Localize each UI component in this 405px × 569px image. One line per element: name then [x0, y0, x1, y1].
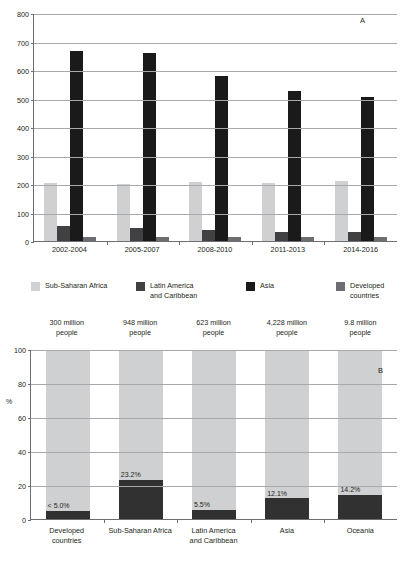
panel-b-stacked-bar: 23.2%	[119, 350, 163, 519]
legend-label: Developed countries	[350, 281, 401, 300]
legend-item: Asia	[246, 281, 274, 291]
panel-b-segment-undernourished	[265, 498, 309, 519]
panel-b-y-tick-mark	[28, 350, 31, 351]
panel-a-y-tick-mark	[31, 214, 34, 215]
panel-a-y-tick-mark	[31, 242, 34, 243]
panel-b-x-tick-label: Developed countries	[30, 526, 103, 545]
panel-b-population-header: 9.8 million people	[324, 318, 397, 337]
panel-b-y-tick-mark	[28, 520, 31, 521]
panel-b-population-header: 4,228 million people	[250, 318, 323, 337]
panel-a-y-tick-label: 300	[17, 152, 29, 161]
panel-b-x-tick-label: Oceania	[324, 526, 397, 545]
panel-b-y-tick-mark	[28, 384, 31, 385]
panel-a-gridline	[34, 157, 397, 158]
panel-a-y-tick-label: 100	[17, 209, 29, 218]
panel-a-gridline	[34, 214, 397, 215]
panel-a-bar	[215, 76, 228, 241]
legend-label: Latin America and Caribbean	[150, 281, 197, 300]
panel-b-gridline	[31, 418, 397, 419]
panel-b-gridline	[31, 350, 397, 351]
panel-a-y-tick-label: 600	[17, 67, 29, 76]
panel-a-bar	[262, 183, 275, 241]
panel-b-y-tick-label: 20	[18, 482, 26, 491]
panel-b-bar-group: < 5.0%	[31, 350, 104, 519]
panel-b-stacked-bar: 14.2%	[338, 350, 382, 519]
panel-b-segment-remainder	[119, 350, 163, 480]
panel-b-percent-label: 12.1%	[267, 490, 287, 497]
panel-b-y-tick-mark	[28, 418, 31, 419]
panel-a-gridline	[34, 14, 397, 15]
panel-b-gridline	[31, 452, 397, 453]
panel-a-gridline	[34, 100, 397, 101]
panel-b-y-tick-label: 0	[22, 516, 26, 525]
panel-a-y-tick-mark	[31, 14, 34, 15]
panel-b-x-tick-label: Sub-Saharan Africa	[103, 526, 176, 545]
panel-b: 300 million people948 million people623 …	[0, 318, 405, 569]
panel-a-bar	[83, 237, 96, 241]
panel-a-y-tick-label: 500	[17, 95, 29, 104]
panel-a-bar	[301, 237, 314, 241]
panel-a-y-tick-mark	[31, 100, 34, 101]
panel-b-y-tick-label: 40	[18, 448, 26, 457]
panel-b-segment-undernourished	[338, 495, 382, 519]
panel-a-bar	[189, 182, 202, 241]
panel-b-segment-remainder	[338, 350, 382, 495]
panel-a-bar	[130, 228, 143, 241]
panel-a-x-tick-label: 2005-2007	[106, 245, 179, 254]
panel-b-percent-label: 5.5%	[194, 501, 210, 508]
panel-a-y-tick-label: 700	[17, 38, 29, 47]
panel-a-y-tick-mark	[31, 71, 34, 72]
panel-b-y-tick-mark	[28, 486, 31, 487]
panel-a-bar	[348, 232, 361, 241]
panel-b-bar-groups: < 5.0%23.2%5.5%12.1%14.2%	[31, 350, 397, 519]
legend-swatch-icon	[246, 282, 255, 291]
panel-a-bar	[275, 232, 288, 241]
panel-a-y-tick-label: 200	[17, 181, 29, 190]
panel-a: A 0100200300400500600700800 2002-2004200…	[0, 0, 405, 270]
panel-a-legend: Sub-Saharan AfricaLatin America and Cari…	[31, 281, 401, 307]
panel-a-x-tick-label: 2011-2013	[251, 245, 324, 254]
panel-b-bar-group: 14.2%	[324, 350, 397, 519]
panel-a-bar	[44, 183, 57, 241]
panel-a-bar	[57, 226, 70, 241]
panel-a-y-tick-mark	[31, 128, 34, 129]
panel-a-x-tick-label: 2008-2010	[179, 245, 252, 254]
panel-b-x-tick-label: Asia	[250, 526, 323, 545]
panel-b-bar-group: 5.5%	[177, 350, 250, 519]
panel-a-bar	[202, 230, 215, 241]
panel-b-segment-undernourished	[46, 511, 90, 520]
panel-b-percent-label: < 5.0%	[48, 502, 70, 509]
legend-label: Asia	[260, 281, 274, 291]
panel-a-x-axis-labels: 2002-20042005-20072008-20102011-20132014…	[33, 245, 397, 254]
panel-b-y-axis-title: %	[6, 398, 12, 405]
panel-b-stacked-bar: 5.5%	[192, 350, 236, 519]
legend-item: Sub-Saharan Africa	[31, 281, 107, 291]
panel-b-y-tick-label: 60	[18, 414, 26, 423]
legend-item: Developed countries	[336, 281, 401, 300]
panel-b-tag: B	[378, 366, 383, 375]
panel-a-y-tick-mark	[31, 157, 34, 158]
panel-b-bar-group: 12.1%	[251, 350, 324, 519]
legend-label: Sub-Saharan Africa	[45, 281, 107, 291]
legend-swatch-icon	[336, 282, 345, 291]
panel-b-plot-area: < 5.0%23.2%5.5%12.1%14.2% 020406080100	[30, 350, 397, 520]
panel-b-stacked-bar: 12.1%	[265, 350, 309, 519]
panel-a-y-tick-label: 400	[17, 124, 29, 133]
panel-b-percent-label: 14.2%	[340, 486, 360, 493]
panel-a-gridline	[34, 71, 397, 72]
panel-b-y-tick-label: 80	[18, 380, 26, 389]
panel-a-bar	[288, 91, 301, 241]
panel-b-y-tick-label: 100	[14, 346, 26, 355]
panel-b-population-header: 623 million people	[177, 318, 250, 337]
panel-b-population-headers: 300 million people948 million people623 …	[30, 318, 397, 337]
panel-b-y-tick-mark	[28, 452, 31, 453]
panel-b-x-tick-label: Latin America and Caribbean	[177, 526, 250, 545]
panel-b-stacked-bar: < 5.0%	[46, 350, 90, 519]
panel-b-segment-undernourished	[192, 510, 236, 519]
panel-b-x-axis-labels: Developed countriesSub-Saharan AfricaLat…	[30, 526, 397, 545]
panel-b-segment-remainder	[265, 350, 309, 498]
legend-item: Latin America and Caribbean	[136, 281, 197, 300]
panel-b-population-header: 300 million people	[30, 318, 103, 337]
panel-a-y-tick-mark	[31, 185, 34, 186]
panel-b-population-header: 948 million people	[103, 318, 176, 337]
